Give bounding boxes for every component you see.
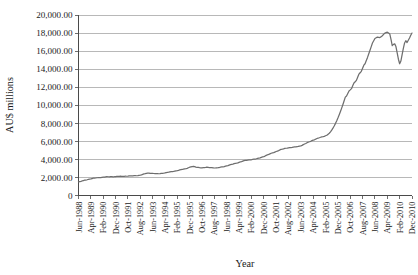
x-tick-label: Dec-2010 bbox=[408, 202, 417, 235]
y-tick-label: 10,000.00 bbox=[36, 100, 73, 110]
y-tick-label: 16,000.00 bbox=[36, 46, 73, 56]
y-tick-label: 4,000.00 bbox=[41, 155, 73, 165]
chart-figure: 02,000.004,000.006,000.008,000.0010,000.… bbox=[0, 0, 418, 275]
x-axis-title: Year bbox=[236, 258, 255, 269]
x-tick-label: Aug-2007 bbox=[359, 202, 368, 236]
line-chart: 02,000.004,000.006,000.008,000.0010,000.… bbox=[0, 0, 418, 275]
x-tick-label: Aug-1992 bbox=[136, 202, 145, 236]
x-tick-label: Feb-1995 bbox=[173, 202, 182, 234]
x-tick-labels: Jun-1988Apr-1989Feb-1990Dec-1990Oct-1991… bbox=[75, 201, 418, 236]
x-tick-label: Feb-2005 bbox=[322, 202, 331, 234]
y-tick-label: 6,000.00 bbox=[41, 137, 73, 147]
x-tick-label: Oct-2006 bbox=[346, 202, 355, 233]
x-tick-label: Oct-2001 bbox=[272, 202, 281, 233]
x-tick-label: Dec-2000 bbox=[260, 202, 269, 235]
y-tick-marks bbox=[75, 15, 79, 196]
x-tick-label: Jun-1998 bbox=[223, 202, 232, 233]
y-tick-label: 8,000.00 bbox=[41, 119, 73, 129]
y-tick-label: 2,000.00 bbox=[41, 173, 73, 183]
x-tick-label: Jun-1993 bbox=[149, 202, 158, 233]
x-tick-label: Dec-2005 bbox=[334, 202, 343, 235]
y-tick-label: 18,000.00 bbox=[36, 28, 73, 38]
y-tick-label: 14,000.00 bbox=[36, 64, 73, 74]
x-tick-label: Dec-1990 bbox=[112, 202, 121, 235]
x-tick-label: Apr-2009 bbox=[383, 202, 392, 234]
x-tick-label: Feb-2000 bbox=[247, 201, 256, 233]
x-tick-label: Aug-2002 bbox=[284, 202, 293, 236]
x-tick-label: Apr-1999 bbox=[235, 202, 244, 234]
x-tick-label: Feb-2010 bbox=[396, 202, 405, 234]
x-tick-label: Jun-1988 bbox=[75, 202, 84, 233]
x-tick-label: Dec-1995 bbox=[186, 202, 195, 235]
y-tick-labels: 02,000.004,000.006,000.008,000.0010,000.… bbox=[36, 10, 73, 201]
x-tick-label: Aug-1997 bbox=[210, 202, 219, 236]
x-tick-label: Apr-2004 bbox=[309, 201, 318, 234]
x-tick-marks bbox=[79, 196, 413, 200]
x-tick-label: Jun-2008 bbox=[371, 202, 380, 233]
y-tick-label: 12,000.00 bbox=[36, 82, 73, 92]
x-tick-label: Oct-1996 bbox=[198, 202, 207, 233]
x-tick-label: Apr-1989 bbox=[87, 202, 96, 234]
gridlines bbox=[79, 15, 413, 177]
y-tick-label: 20,000.00 bbox=[36, 10, 73, 20]
y-axis-title: AU$ millions bbox=[4, 77, 15, 133]
x-tick-label: Jun-2003 bbox=[297, 202, 306, 233]
y-tick-label: 0 bbox=[68, 191, 73, 201]
x-tick-label: Oct-1991 bbox=[124, 202, 133, 233]
x-tick-label: Apr-1994 bbox=[161, 201, 170, 234]
x-tick-label: Feb-1990 bbox=[99, 202, 108, 234]
